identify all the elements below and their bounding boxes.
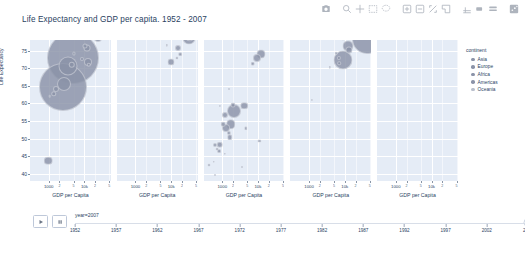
gridline-horizontal <box>117 68 198 69</box>
lasso-select-icon[interactable] <box>380 3 391 14</box>
scatter-bubble[interactable] <box>224 153 226 155</box>
slider-tick-label[interactable]: 1952 <box>70 228 80 233</box>
box-select-icon[interactable] <box>367 3 378 14</box>
scatter-bubble[interactable] <box>228 88 230 90</box>
pause-button[interactable] <box>52 215 67 228</box>
pan-icon[interactable] <box>354 3 365 14</box>
legend-item-europe[interactable]: Europe <box>466 63 498 71</box>
x-axis-tick-mark <box>233 181 234 183</box>
gridline-vertical-minor <box>457 40 458 181</box>
gridline-vertical-minor <box>146 40 147 181</box>
spike-lines-icon[interactable] <box>461 3 472 14</box>
scatter-bubble[interactable] <box>311 99 313 101</box>
scatter-bubble[interactable] <box>241 102 249 110</box>
legend-item-africa[interactable]: Africa <box>466 71 498 79</box>
scatter-bubble[interactable] <box>231 103 236 108</box>
plotly-modebar[interactable] <box>320 2 519 15</box>
gridline-vertical <box>135 40 136 181</box>
legend-item-oceania[interactable]: Oceania <box>466 86 498 94</box>
scatter-bubble[interactable] <box>241 166 243 168</box>
legend-swatch-icon <box>471 65 475 69</box>
facet-panel-africa[interactable]: continent=Africa <box>204 40 285 181</box>
scatter-bubble[interactable] <box>51 91 57 97</box>
slider-tick-label[interactable]: 1982 <box>317 228 327 233</box>
hover-closest-icon[interactable] <box>474 3 485 14</box>
scatter-bubble[interactable] <box>222 112 228 118</box>
slider-tick-label[interactable]: 1997 <box>441 228 451 233</box>
gridline-vertical-minor <box>182 40 183 181</box>
scatter-bubble[interactable] <box>165 44 167 46</box>
scatter-bubble[interactable] <box>80 57 84 61</box>
scatter-bubble[interactable] <box>258 140 261 143</box>
slider-track[interactable] <box>75 223 525 224</box>
scatter-bubble[interactable] <box>345 46 352 53</box>
slider-tick-label[interactable]: 1992 <box>399 228 409 233</box>
autoscale-icon[interactable] <box>427 3 438 14</box>
x-axis-tick-mark <box>334 181 335 183</box>
scatter-bubble[interactable] <box>48 95 51 98</box>
scatter-bubble[interactable] <box>213 143 217 147</box>
slider-tick-label[interactable]: 1977 <box>276 228 286 233</box>
scatter-bubble[interactable] <box>167 58 174 65</box>
slider-tick-label[interactable]: 1987 <box>358 228 368 233</box>
gridline-horizontal <box>377 86 458 87</box>
legend-item-americas[interactable]: Americas <box>466 78 498 86</box>
scatter-bubble[interactable] <box>44 156 53 165</box>
x-axis-tick-mark <box>442 181 443 183</box>
x-axis-tick-label: 2 <box>406 184 408 188</box>
plotly-logo-icon[interactable] <box>508 3 519 14</box>
x-axis-tick-label: 10k <box>168 184 175 189</box>
scatter-bubble[interactable] <box>212 160 215 163</box>
scatter-bubble[interactable] <box>219 104 221 106</box>
zoom-icon[interactable] <box>341 3 352 14</box>
scatter-bubble[interactable] <box>250 62 255 67</box>
play-button[interactable] <box>33 215 48 228</box>
facet-panel-americas[interactable]: continent=Americas <box>290 40 371 181</box>
slider-tick-label[interactable]: 1972 <box>235 228 245 233</box>
x-axis-tick-label: 2 <box>268 184 270 188</box>
legend-item-asia[interactable]: Asia <box>466 56 498 64</box>
hover-compare-icon[interactable] <box>487 3 498 14</box>
gridline-horizontal <box>290 174 371 175</box>
scatter-bubble[interactable] <box>221 122 226 127</box>
slider-tick-label[interactable]: 1957 <box>111 228 121 233</box>
scatter-bubble[interactable] <box>69 61 76 68</box>
scatter-bubble[interactable] <box>227 135 233 141</box>
scatter-bubble[interactable] <box>83 43 88 48</box>
gridline-horizontal <box>290 103 371 104</box>
scatter-bubble[interactable] <box>335 52 338 55</box>
facet-panel-asia[interactable]: continent=Asia <box>30 40 111 181</box>
scatter-bubble[interactable] <box>337 61 341 65</box>
gridline-vertical-minor <box>283 40 284 181</box>
gridline-vertical <box>396 40 397 181</box>
x-axis-tick-label: 2 <box>145 184 147 188</box>
x-axis-tick-label: 2 <box>94 184 96 188</box>
zoom-in-icon[interactable] <box>401 3 412 14</box>
slider-tick-label[interactable]: 1962 <box>152 228 162 233</box>
scatter-bubble[interactable] <box>86 62 91 67</box>
scatter-bubble[interactable] <box>175 56 178 59</box>
legend[interactable]: continent AsiaEuropeAfricaAmericasOceani… <box>466 47 498 93</box>
scatter-bubble[interactable] <box>175 45 181 51</box>
scatter-bubble[interactable] <box>217 141 224 148</box>
scatter-bubble[interactable] <box>178 52 182 56</box>
gridline-horizontal <box>204 86 285 87</box>
scatter-bubble[interactable] <box>214 174 216 176</box>
zoom-out-icon[interactable] <box>414 3 425 14</box>
legend-items[interactable]: AsiaEuropeAfricaAmericasOceania <box>466 56 498 94</box>
x-axis-tick-label: 1000 <box>217 184 227 189</box>
animation-controls[interactable]: year=2007 195219571962196719721977198219… <box>33 213 503 253</box>
reset-axes-icon[interactable] <box>440 3 451 14</box>
scatter-bubble[interactable] <box>208 163 211 166</box>
scatter-bubble[interactable] <box>215 148 218 151</box>
y-axis-tick-label: 60 <box>12 100 27 106</box>
facet-panel-oceania[interactable]: continent=Oceania <box>377 40 458 181</box>
x-axis-tick-mark <box>345 181 346 183</box>
gridline-horizontal <box>290 121 371 122</box>
slider-tick-mark <box>363 224 364 227</box>
slider-tick-label[interactable]: 2002 <box>482 228 492 233</box>
legend-item-label: Europe <box>478 64 493 69</box>
slider-tick-label[interactable]: 1967 <box>193 228 203 233</box>
camera-icon[interactable] <box>320 3 331 14</box>
facet-panel-europe[interactable]: continent=Europe <box>117 40 198 181</box>
